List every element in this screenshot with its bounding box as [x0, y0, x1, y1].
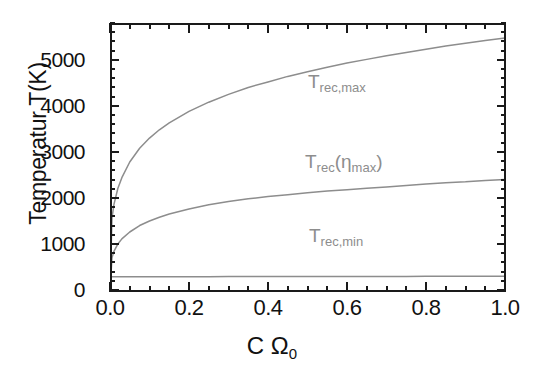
y-tick-minor-right	[501, 206, 506, 208]
y-tick-minor	[110, 114, 115, 116]
x-tick-major-top	[504, 23, 506, 33]
chart-figure: 010002000300040005000 0.00.20.40.60.81.0…	[0, 0, 544, 372]
x-tick-minor	[445, 286, 447, 292]
x-tick-label: 0.6	[307, 296, 387, 320]
x-tick-label: 0.2	[149, 296, 229, 320]
x-tick-minor-top	[386, 23, 388, 29]
annotation-eta-close-paren: )	[376, 151, 382, 172]
y-tick-minor	[110, 96, 115, 98]
x-tick-minor	[129, 286, 131, 292]
x-tick-minor-top	[484, 23, 486, 29]
x-tick-minor	[405, 286, 407, 292]
x-tick-major-top	[188, 23, 190, 33]
x-tick-minor-top	[168, 23, 170, 29]
annotation-eta-subscript-2: max	[352, 160, 377, 175]
x-tick-major	[504, 282, 506, 292]
y-tick-minor	[110, 68, 115, 70]
x-tick-minor-top	[228, 23, 230, 29]
y-tick-minor	[110, 261, 115, 263]
y-tick-minor	[110, 132, 115, 134]
x-tick-label: 0.8	[386, 296, 466, 320]
x-tick-minor	[247, 286, 249, 292]
y-tick-minor	[110, 86, 115, 88]
x-tick-minor-top	[326, 23, 328, 29]
x-tick-minor	[366, 286, 368, 292]
annotation-t-rec-min: Trec,min	[309, 226, 363, 251]
y-tick-minor-right	[501, 40, 506, 42]
x-tick-minor-top	[287, 23, 289, 29]
y-tick-major	[110, 59, 119, 61]
y-tick-minor	[110, 179, 115, 181]
y-tick-minor-right	[501, 114, 506, 116]
y-tick-minor	[110, 271, 115, 273]
y-tick-minor-right	[501, 179, 506, 181]
y-tick-minor-right	[501, 96, 506, 98]
y-tick-minor	[110, 188, 115, 190]
x-tick-minor	[168, 286, 170, 292]
x-tick-minor	[307, 286, 309, 292]
y-tick-minor	[110, 225, 115, 227]
y-tick-minor-right	[501, 215, 506, 217]
x-tick-minor	[484, 286, 486, 292]
y-tick-minor-right	[501, 123, 506, 125]
x-tick-major	[346, 282, 348, 292]
x-tick-minor	[208, 286, 210, 292]
annotation-eta-subscript: rec	[317, 160, 335, 175]
x-tick-minor-top	[366, 23, 368, 29]
annotation-min-base: T	[309, 225, 321, 246]
x-tick-minor	[149, 286, 151, 292]
y-tick-minor	[110, 77, 115, 79]
y-tick-minor-right	[501, 68, 506, 70]
y-tick-minor-right	[501, 132, 506, 134]
y-tick-minor	[110, 169, 115, 171]
x-tick-minor-top	[149, 23, 151, 29]
y-tick-minor-right	[501, 86, 506, 88]
y-tick-major	[110, 151, 119, 153]
x-tick-minor	[228, 286, 230, 292]
y-tick-minor	[110, 215, 115, 217]
annotation-eta-open-paren: (η	[335, 151, 352, 172]
x-tick-minor-top	[307, 23, 309, 29]
x-tick-major	[425, 282, 427, 292]
y-tick-major-right	[497, 59, 506, 61]
annotation-t-rec-eta-max: Trec(ηmax)	[305, 152, 382, 177]
y-tick-minor	[110, 234, 115, 236]
annotation-max-base: T	[308, 71, 320, 92]
x-tick-minor-top	[405, 23, 407, 29]
y-tick-minor-right	[501, 142, 506, 144]
x-tick-major-top	[109, 23, 111, 33]
y-tick-major-right	[497, 243, 506, 245]
y-tick-minor-right	[501, 77, 506, 79]
annotation-max-subscript: rec,max	[320, 80, 366, 95]
x-tick-major-top	[346, 23, 348, 33]
x-tick-minor-top	[208, 23, 210, 29]
x-tick-minor-top	[129, 23, 131, 29]
y-tick-minor-right	[501, 160, 506, 162]
y-tick-major	[110, 197, 119, 199]
y-tick-major	[110, 243, 119, 245]
y-tick-minor-right	[501, 50, 506, 52]
curve-t-rec-eta-max-	[110, 180, 505, 290]
y-tick-minor-right	[501, 261, 506, 263]
x-tick-minor-top	[247, 23, 249, 29]
annotation-min-subscript: rec,min	[321, 234, 364, 249]
x-axis-title: C Ω0	[0, 333, 544, 367]
x-tick-major-top	[425, 23, 427, 33]
y-tick-major-right	[497, 105, 506, 107]
x-tick-minor	[326, 286, 328, 292]
y-tick-minor-right	[501, 169, 506, 171]
y-tick-minor	[110, 206, 115, 208]
y-axis-title: Temperatur T(K)	[27, 34, 50, 254]
x-tick-label: 0.0	[70, 296, 150, 320]
x-tick-minor	[287, 286, 289, 292]
y-tick-minor-right	[501, 225, 506, 227]
y-tick-major-right	[497, 151, 506, 153]
x-tick-label: 0.4	[228, 296, 308, 320]
annotation-t-rec-max: Trec,max	[308, 72, 366, 97]
x-tick-minor-top	[465, 23, 467, 29]
y-tick-minor	[110, 160, 115, 162]
y-tick-minor-right	[501, 271, 506, 273]
x-axis-title-subscript: 0	[289, 345, 297, 362]
y-tick-minor	[110, 123, 115, 125]
x-tick-minor-top	[445, 23, 447, 29]
